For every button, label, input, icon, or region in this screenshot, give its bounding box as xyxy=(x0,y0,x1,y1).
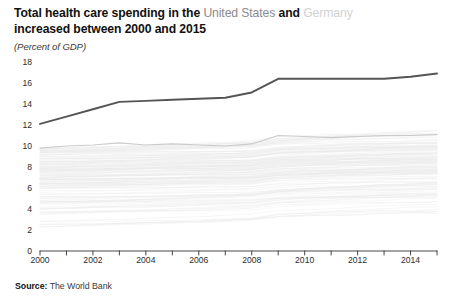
chart-source: Source: The World Bank xyxy=(15,281,112,291)
y-axis-tick-6: 6 xyxy=(10,184,32,193)
y-axis-tick-12: 12 xyxy=(10,121,32,130)
title-conjunction: and xyxy=(275,6,303,20)
united-states-series-line xyxy=(40,74,437,124)
chart-header: Total health care spending in the United… xyxy=(14,6,446,52)
source-value: The World Bank xyxy=(50,281,112,291)
x-axis-tick-2008: 2008 xyxy=(232,256,272,265)
x-axis-tick-2004: 2004 xyxy=(126,256,166,265)
title-segment-lead: Total health care spending in the xyxy=(14,6,203,20)
x-axis-tick-2000: 2000 xyxy=(20,256,60,265)
y-axis-tick-4: 4 xyxy=(10,205,32,214)
page-title: Total health care spending in the United… xyxy=(14,6,446,37)
y-axis-tick-8: 8 xyxy=(10,163,32,172)
y-axis-tick-16: 16 xyxy=(10,79,32,88)
x-axis-tick-2010: 2010 xyxy=(285,256,325,265)
chart-card: Total health care spending in the United… xyxy=(0,0,456,301)
x-axis-tick-2014: 2014 xyxy=(391,256,431,265)
source-label: Source: xyxy=(15,281,47,291)
x-axis-tick-2006: 2006 xyxy=(179,256,219,265)
title-highlight-germany: Germany xyxy=(303,6,352,20)
title-segment-tail: increased between 2000 and 2015 xyxy=(14,22,206,36)
title-highlight-united-states: United States xyxy=(203,6,275,20)
y-axis-tick-10: 10 xyxy=(10,142,32,151)
y-axis-tick-0: 0 xyxy=(10,247,32,256)
chart-subtitle: (Percent of GDP) xyxy=(14,41,446,52)
x-axis-tick-2012: 2012 xyxy=(338,256,378,265)
y-axis-tick-2: 2 xyxy=(10,226,32,235)
line-chart-svg xyxy=(0,52,456,267)
plot-area xyxy=(0,52,456,267)
y-axis-tick-18: 18 xyxy=(10,58,32,67)
x-axis-tick-2002: 2002 xyxy=(73,256,113,265)
y-axis-tick-14: 14 xyxy=(10,100,32,109)
